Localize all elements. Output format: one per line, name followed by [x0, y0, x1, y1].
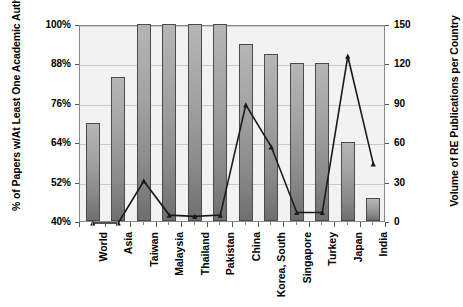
line-series [80, 26, 386, 223]
x-tick-minor [143, 222, 144, 225]
y-tick-label-right: 0 [394, 216, 400, 227]
y-tick-label-right: 30 [394, 177, 405, 188]
x-axis-label: Malaysia [173, 232, 185, 276]
x-tick [79, 222, 80, 227]
x-tick [334, 222, 335, 227]
line-marker [141, 178, 146, 183]
x-tick [156, 222, 157, 227]
x-tick [105, 222, 106, 227]
x-tick [360, 222, 361, 227]
y-axis-right-title: Volume of RE Publications per Country [448, 11, 460, 211]
x-axis-label: Asia [122, 232, 134, 254]
x-tick [258, 222, 259, 227]
y-tick-right [385, 143, 389, 144]
x-tick-minor [270, 222, 271, 225]
x-tick [130, 222, 131, 227]
y-tick-label-right: 150 [394, 19, 411, 30]
line-path [93, 56, 374, 223]
line-marker [243, 102, 248, 107]
x-tick-minor [296, 222, 297, 225]
y-tick-left [75, 183, 79, 184]
y-tick-label-left: 52% [51, 177, 71, 188]
y-tick-right [385, 183, 389, 184]
y-axis-left-title: % of Papers w/At Least One Academic Auth… [10, 11, 22, 211]
x-tick-minor [372, 222, 373, 225]
y-tick-label-right: 60 [394, 137, 405, 148]
x-tick-minor [194, 222, 195, 225]
y-tick-label-right: 90 [394, 98, 405, 109]
y-tick-label-left: 64% [51, 137, 71, 148]
y-tick-label-left: 40% [51, 216, 71, 227]
y-tick-label-left: 88% [51, 58, 71, 69]
x-axis-label: Turkey [326, 232, 338, 266]
x-axis-label: Pakistan [224, 232, 236, 275]
y-tick-right [385, 64, 389, 65]
x-tick [232, 222, 233, 227]
x-axis-label: Thailand [199, 232, 211, 275]
x-tick-minor [245, 222, 246, 225]
x-tick [181, 222, 182, 227]
y-tick-left [75, 64, 79, 65]
x-axis-label: World [97, 232, 109, 262]
y-tick-left [75, 143, 79, 144]
x-axis-label: China [250, 232, 262, 261]
x-axis-label: Taiwan [148, 232, 160, 267]
x-axis-label: Korea, South [275, 232, 287, 297]
x-axis-label: Singapore [301, 232, 313, 283]
x-axis-label: India [377, 232, 389, 257]
y-tick-label-left: 76% [51, 98, 71, 109]
chart-container: % of Papers w/At Least One Academic Auth… [0, 0, 463, 307]
y-tick-right [385, 25, 389, 26]
plot-area [79, 25, 385, 222]
x-tick [385, 222, 386, 227]
x-tick-minor [92, 222, 93, 225]
y-tick-right [385, 104, 389, 105]
x-tick-minor [321, 222, 322, 225]
y-tick-label-right: 120 [394, 58, 411, 69]
x-tick-minor [219, 222, 220, 225]
y-tick-label-left: 100% [45, 19, 71, 30]
line-marker [345, 54, 350, 59]
x-tick [309, 222, 310, 227]
x-tick-minor [117, 222, 118, 225]
y-tick-left [75, 104, 79, 105]
x-tick [207, 222, 208, 227]
x-tick-minor [347, 222, 348, 225]
line-marker [371, 161, 376, 166]
x-axis-label: Japan [352, 232, 364, 262]
y-tick-left [75, 25, 79, 26]
x-tick [283, 222, 284, 227]
x-tick-minor [168, 222, 169, 225]
